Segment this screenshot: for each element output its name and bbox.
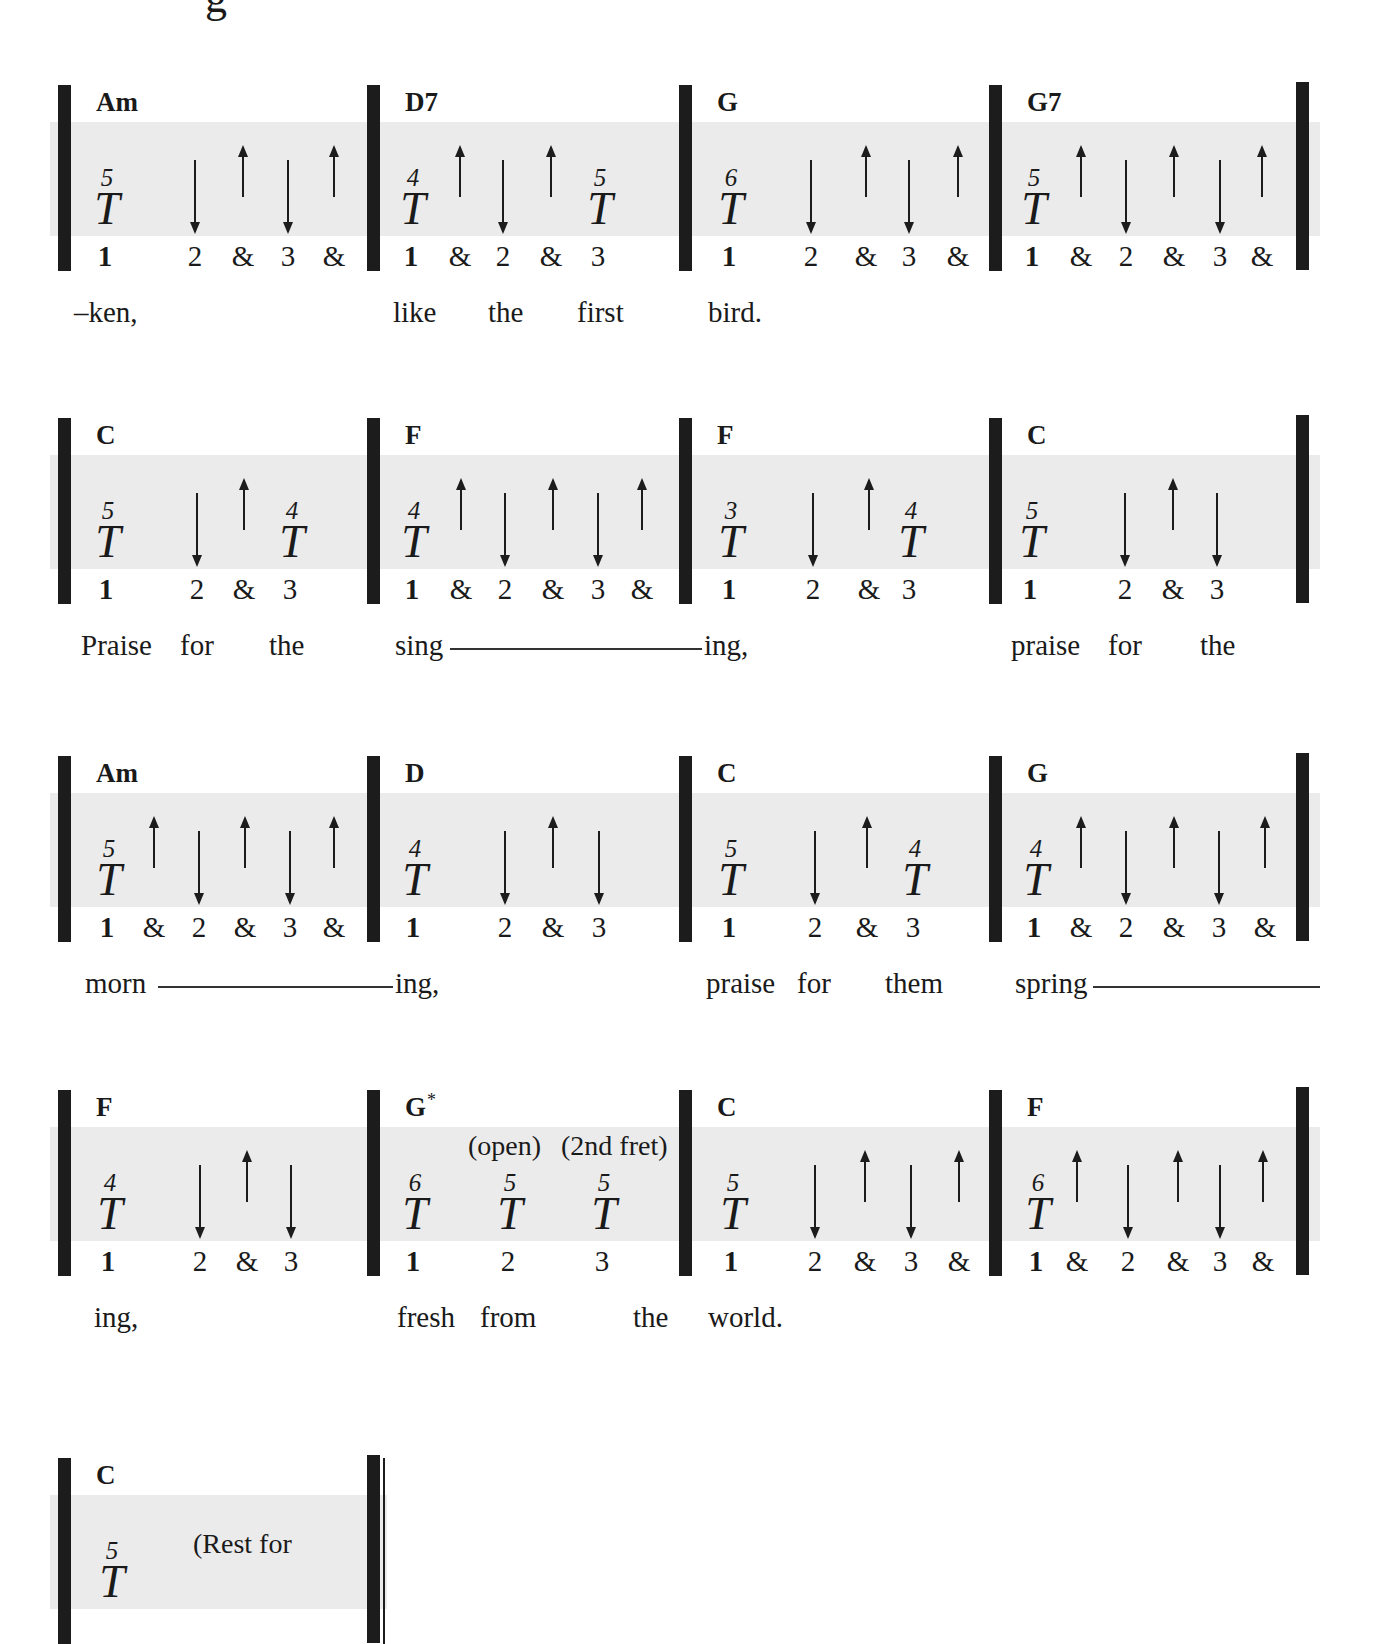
down-strum-arrow-icon — [287, 160, 289, 232]
up-strum-arrow-icon — [246, 1152, 248, 1202]
beat-count: & — [1252, 1245, 1275, 1278]
chord-name: G — [717, 87, 738, 118]
beat-count: 1 — [1029, 1245, 1044, 1278]
up-strum-arrow-icon — [333, 147, 335, 197]
thumb-t-icon: T — [1019, 522, 1045, 562]
final-barline — [383, 1458, 385, 1644]
chord-label: C — [96, 1460, 116, 1490]
chord-label: C — [717, 758, 737, 788]
lyric-word: ing, — [395, 967, 439, 1000]
down-strum-arrow-icon — [812, 493, 814, 565]
barline — [1296, 82, 1309, 270]
barline — [1296, 753, 1309, 941]
up-strum-arrow-icon — [459, 147, 461, 197]
thumb-t-icon: T — [400, 189, 426, 229]
lyric-word: sing — [395, 629, 443, 662]
chord-label: C — [96, 420, 116, 450]
chord-label: G — [1027, 758, 1048, 788]
down-strum-arrow-icon — [1125, 831, 1127, 903]
chord-name: G* — [405, 1092, 436, 1123]
thumb-t-icon: T — [720, 1194, 746, 1234]
beat-count: & — [1163, 911, 1186, 944]
beat-count: 1 — [1023, 573, 1038, 606]
chord-label: G — [717, 87, 738, 117]
beat-count: 3 — [591, 573, 606, 606]
chord-name: C — [96, 420, 116, 451]
thumb-t-icon: T — [587, 189, 613, 229]
beat-count: 3 — [284, 1245, 299, 1278]
beat-count: & — [854, 1245, 877, 1278]
thumb-stroke: 4T — [97, 1172, 123, 1234]
thumb-t-icon: T — [95, 522, 121, 562]
beat-count: & — [236, 1245, 259, 1278]
thumb-stroke: 5T — [95, 500, 121, 562]
beat-count: 2 — [192, 911, 207, 944]
thumb-stroke: 4T — [898, 500, 924, 562]
thumb-stroke: 6T — [718, 167, 744, 229]
down-strum-arrow-icon — [1219, 160, 1221, 232]
barline — [58, 418, 71, 604]
chord-name: F — [717, 420, 734, 451]
beat-count: 2 — [1118, 573, 1133, 606]
fret-note: (open) — [468, 1130, 541, 1162]
barline — [58, 756, 71, 942]
lyric-word: –ken, — [74, 296, 138, 329]
lyric-word: them — [885, 967, 943, 1000]
thumb-stroke: 5T — [591, 1172, 617, 1234]
thumb-t-icon: T — [99, 1562, 125, 1602]
beat-count: & — [1070, 911, 1093, 944]
barline — [58, 1458, 71, 1644]
title-fragment: g — [205, 0, 227, 23]
down-strum-arrow-icon — [502, 160, 504, 232]
up-strum-arrow-icon — [460, 480, 462, 530]
chord-label: D7 — [405, 87, 438, 117]
up-strum-arrow-icon — [1080, 818, 1082, 868]
down-strum-arrow-icon — [289, 831, 291, 903]
rest-note: (Rest for — [193, 1528, 292, 1560]
beat-count: 1 — [1027, 911, 1042, 944]
beat-count: & — [858, 573, 881, 606]
beat-count: & — [948, 1245, 971, 1278]
lyric-extender-line — [158, 986, 393, 988]
thumb-stroke: 5T — [718, 838, 744, 900]
up-strum-arrow-icon — [153, 818, 155, 868]
beat-count: 2 — [498, 573, 513, 606]
thumb-stroke: 4T — [279, 500, 305, 562]
lyric-extender-line — [1093, 986, 1320, 988]
barline — [58, 85, 71, 271]
up-strum-arrow-icon — [641, 480, 643, 530]
down-strum-arrow-icon — [194, 160, 196, 232]
beat-count: 3 — [595, 1245, 610, 1278]
chord-name: G — [1027, 758, 1048, 789]
lyric-word: fresh — [397, 1301, 455, 1334]
down-strum-arrow-icon — [504, 493, 506, 565]
beat-count: & — [856, 911, 879, 944]
thumb-t-icon: T — [1021, 189, 1047, 229]
barline — [989, 85, 1002, 271]
beat-count: 1 — [98, 240, 113, 273]
up-strum-arrow-icon — [1262, 1152, 1264, 1202]
beat-count: 1 — [722, 573, 737, 606]
up-strum-arrow-icon — [243, 480, 245, 530]
thumb-t-icon: T — [718, 189, 744, 229]
beat-count: 3 — [281, 240, 296, 273]
down-strum-arrow-icon — [1216, 493, 1218, 565]
beat-count: 2 — [1121, 1245, 1136, 1278]
beat-count: 1 — [101, 1245, 116, 1278]
thumb-stroke: 5T — [587, 167, 613, 229]
beat-count: & — [450, 573, 473, 606]
thumb-t-icon: T — [898, 522, 924, 562]
beat-count: 2 — [1119, 911, 1134, 944]
thumb-stroke: 3T — [718, 500, 744, 562]
chord-name: F — [1027, 1092, 1044, 1123]
beat-count: 2 — [804, 240, 819, 273]
down-strum-arrow-icon — [1125, 160, 1127, 232]
chord-label: F — [717, 420, 734, 450]
beat-count: & — [143, 911, 166, 944]
thumb-t-icon: T — [279, 522, 305, 562]
barline — [58, 1090, 71, 1276]
up-strum-arrow-icon — [866, 818, 868, 868]
lyric-word: the — [1200, 629, 1235, 662]
beat-count: 3 — [1213, 240, 1228, 273]
down-strum-arrow-icon — [598, 831, 600, 903]
